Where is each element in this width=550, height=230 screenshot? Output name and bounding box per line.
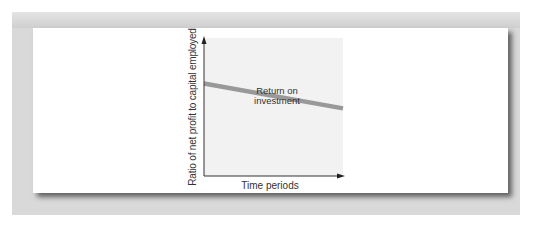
chart-svg [0,0,550,230]
x-axis-label: Time periods [241,180,298,191]
x-axis-arrow-icon [337,174,345,179]
series-annotation: Return on investment [254,86,300,106]
y-axis-label: Ratio of net profit to capital employed [187,28,198,185]
y-axis-arrow-icon [202,36,207,44]
series-annotation-line2: investment [254,96,300,106]
